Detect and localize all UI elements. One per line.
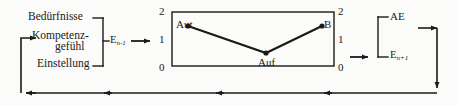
output-signal-subscript: n+1 xyxy=(396,54,408,62)
diagram-canvas: chart ============ --> output bracket ==… xyxy=(0,0,457,106)
left-group-bracket xyxy=(93,18,109,66)
label-input-signal: En-1 xyxy=(110,35,126,47)
label-ae: AE xyxy=(390,11,405,22)
y-axis-left-tick-1: 1 xyxy=(159,34,165,45)
feedback-right-descender xyxy=(418,28,437,88)
chart-label-b: B xyxy=(324,19,331,30)
output-group-bracket xyxy=(378,17,388,57)
y-axis-left-tick-2: 2 xyxy=(159,6,165,17)
y-axis-right-tick-1: 1 xyxy=(338,34,344,45)
label-gefuehl: gefühl xyxy=(55,41,84,53)
chart-point-auf xyxy=(263,50,268,55)
label-einstellung: Einstellung xyxy=(37,58,89,70)
feedback-left-riser xyxy=(21,38,36,93)
chart-series-line xyxy=(185,23,324,55)
y-axis-right-tick-0: 0 xyxy=(338,62,344,73)
chart-plot-box xyxy=(172,12,334,66)
chart-label-auf: Auf xyxy=(258,57,275,68)
label-output-signal: En+1 xyxy=(390,50,408,62)
y-axis-left-tick-0: 0 xyxy=(159,62,165,73)
y-axis-right-tick-2: 2 xyxy=(338,6,344,17)
chart-label-aut: Aut xyxy=(176,19,193,30)
input-signal-subscript: n-1 xyxy=(116,39,125,47)
label-beduerfnisse: Bedürfnisse xyxy=(28,11,83,23)
